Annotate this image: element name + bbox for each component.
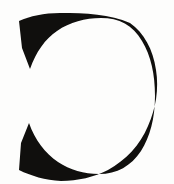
glyph-canvas: C [0,0,174,184]
letter-c-glyph [0,0,174,184]
